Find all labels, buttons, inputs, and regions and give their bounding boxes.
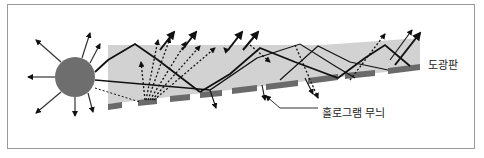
hologram-leader-line: [266, 96, 318, 108]
light-guide-diagram: [0, 0, 484, 158]
light-source: [55, 57, 95, 97]
hologram-pattern-label: 홀로그램 무늬: [322, 104, 386, 120]
light-guide-plate-label: 도광판: [428, 56, 458, 72]
